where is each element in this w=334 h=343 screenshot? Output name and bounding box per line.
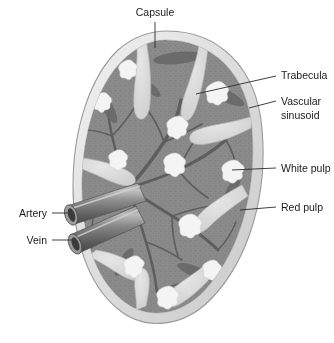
label-vascular-sinusoid-line1: Vascular	[281, 95, 322, 107]
spleen-diagram: Capsule Trabecula Vascular sinusoid Whit…	[0, 0, 334, 343]
label-white-pulp: White pulp	[281, 162, 331, 174]
label-capsule: Capsule	[136, 6, 175, 18]
label-vein: Vein	[27, 234, 48, 246]
label-artery: Artery	[19, 207, 48, 219]
label-red-pulp: Red pulp	[281, 201, 323, 213]
label-trabecula: Trabecula	[281, 69, 327, 81]
label-vascular-sinusoid-line2: sinusoid	[281, 109, 320, 121]
